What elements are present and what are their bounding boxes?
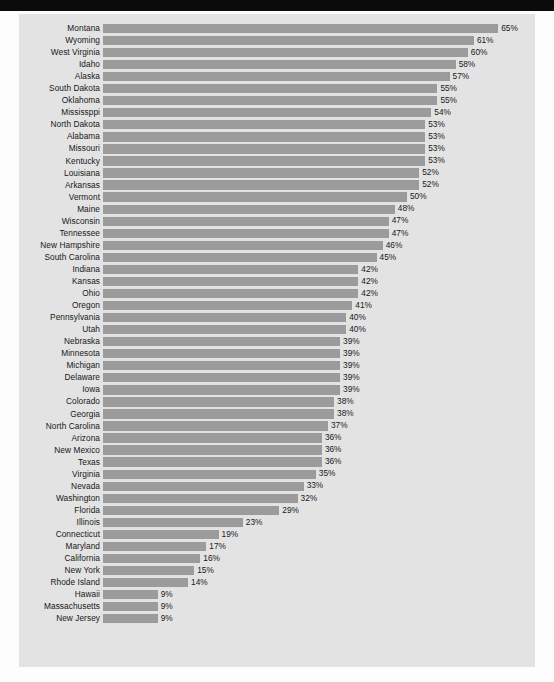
bar-category-label: New Mexico [19,445,100,456]
chart-bar-row: Iowa39% [19,384,535,396]
bar [103,506,279,515]
bar-track: 46% [103,241,535,250]
bar-category-label: Maryland [19,541,100,552]
chart-bar-row: Maryland17% [19,541,535,553]
bar-track: 17% [103,542,535,551]
bar-track: 19% [103,530,535,539]
bar [103,180,419,189]
bar-category-label: Arkansas [19,180,100,191]
chart-bar-row: Kansas42% [19,276,535,288]
bar-category-label: Ohio [19,288,100,299]
bar [103,397,334,406]
bar-category-label: New Jersey [19,613,100,624]
bar-track: 16% [103,554,535,563]
bar [103,120,425,129]
bar-track: 50% [103,192,535,201]
bar-value-label: 52% [419,167,439,178]
bar-track: 39% [103,373,535,382]
chart-bar-row: South Carolina45% [19,252,535,264]
bar-rows-container: Montana65%Wyoming61%West Virginia60%Idah… [19,23,535,653]
chart-bar-row: West Virginia60% [19,47,535,59]
bar-value-label: 38% [334,396,354,407]
bar [103,301,352,310]
bar-value-label: 60% [468,47,488,58]
bar [103,373,340,382]
bar [103,241,383,250]
bar-category-label: Colorado [19,396,100,407]
chart-bar-row: California16% [19,553,535,565]
chart-bar-row: Georgia38% [19,409,535,421]
bar-category-label: Montana [19,23,100,34]
bar-value-label: 54% [431,107,451,118]
bar [103,313,346,322]
bar-track: 38% [103,397,535,406]
chart-bar-row: Oregon41% [19,300,535,312]
bar [103,445,322,454]
chart-bar-row: Ohio42% [19,288,535,300]
bar-value-label: 61% [474,35,494,46]
bar [103,96,437,105]
chart-bar-row: New Hampshire46% [19,240,535,252]
bar-value-label: 57% [450,71,470,82]
bar-value-label: 19% [219,529,239,540]
bar-track: 33% [103,482,535,491]
bar-track: 42% [103,265,535,274]
chart-bar-row: Alabama53% [19,131,535,143]
bar-value-label: 9% [158,601,173,612]
bar-category-label: Wisconsin [19,216,100,227]
bar [103,277,358,286]
bar [103,361,340,370]
bar-value-label: 53% [425,119,445,130]
bar [103,385,340,394]
bar [103,470,316,479]
chart-bar-row: Texas36% [19,457,535,469]
bar-track: 48% [103,205,535,214]
bar [103,168,419,177]
bar-track: 15% [103,566,535,575]
bar [103,349,340,358]
bar-value-label: 39% [340,348,360,359]
bar [103,566,194,575]
bar [103,554,200,563]
bar [103,457,322,466]
chart-bar-row: Arizona36% [19,433,535,445]
bar-track: 39% [103,349,535,358]
chart-bar-row: Massachusetts9% [19,601,535,613]
bar [103,60,456,69]
bar-value-label: 40% [346,324,366,335]
bar [103,542,206,551]
chart-bar-row: Washington32% [19,493,535,505]
chart-bar-row: Pennsylvania40% [19,312,535,324]
bar-category-label: Washington [19,493,100,504]
bar-track: 55% [103,96,535,105]
chart-bar-row: Oklahoma55% [19,95,535,107]
bar [103,132,425,141]
bar-category-label: Pennsylvania [19,312,100,323]
bar-value-label: 38% [334,408,354,419]
bar-category-label: South Dakota [19,83,100,94]
bar-track: 53% [103,156,535,165]
chart-bar-row: Tennessee47% [19,228,535,240]
chart-bar-row: Connecticut19% [19,529,535,541]
bar [103,108,431,117]
bar-value-label: 55% [437,95,457,106]
bar [103,421,328,430]
bar-category-label: Oregon [19,300,100,311]
bar-track: 14% [103,578,535,587]
bar-category-label: Louisiana [19,168,100,179]
bar-category-label: Virginia [19,469,100,480]
bar [103,253,377,262]
bar-category-label: Iowa [19,384,100,395]
bar-track: 39% [103,337,535,346]
page-footer-space [0,667,554,682]
bar-category-label: Minnesota [19,348,100,359]
bar-category-label: Maine [19,204,100,215]
bar-value-label: 42% [358,264,378,275]
chart-bar-row: Indiana42% [19,264,535,276]
bar-value-label: 58% [456,59,476,70]
chart-bar-row: Hawaii9% [19,589,535,601]
bar-value-label: 47% [389,215,409,226]
bar [103,72,450,81]
chart-bar-row: South Dakota55% [19,83,535,95]
chart-bar-row: Idaho58% [19,59,535,71]
